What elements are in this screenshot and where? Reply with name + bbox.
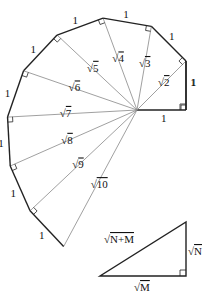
unit-label: 1 [39, 229, 45, 241]
general-right-triangle: √N+M√N√M [100, 222, 202, 293]
unit-label: 1 [5, 87, 11, 99]
svg-text:√10: √10 [91, 178, 109, 190]
svg-text:√N: √N [188, 245, 202, 257]
svg-text:√8: √8 [61, 134, 73, 146]
unit-edge [57, 18, 103, 35]
spiral-of-theodorus-diagram: 11111111111√2√3√4√5√6√7√8√9√10 √N+M√N√M [0, 0, 217, 299]
right-angle-mark [54, 38, 61, 42]
hypotenuse-label-sqrt-4: √4 [112, 52, 124, 64]
unit-label: 1 [10, 187, 16, 199]
hypotenuse-label-sqrt-2: √2 [158, 76, 170, 88]
svg-text:√N+M: √N+M [104, 233, 134, 245]
hypotenuse-label-sqrt-3: √3 [139, 57, 151, 69]
svg-text:√M: √M [134, 281, 150, 293]
svg-text:√5: √5 [87, 62, 99, 74]
unit-edge [8, 117, 11, 166]
right-angle-mark [8, 117, 13, 122]
svg-text:√4: √4 [112, 52, 124, 64]
triangle-outline [100, 222, 186, 276]
hypotenuse-label-sqrt-10: √10 [91, 178, 109, 190]
right-angle-mark [181, 105, 186, 110]
unit-label: 1 [161, 112, 167, 124]
svg-text:√9: √9 [72, 158, 84, 170]
svg-text:√6: √6 [69, 81, 81, 93]
hypotenuse-label-sqrt-8: √8 [61, 134, 73, 146]
unit-label: 1 [191, 76, 197, 88]
unit-label: 1 [30, 43, 35, 55]
svg-text:√7: √7 [60, 107, 72, 119]
hypotenuse-label-sqrt-6: √6 [69, 81, 81, 93]
radial-line [24, 71, 137, 110]
hypotenuse-label-sqrt-5: √5 [87, 62, 99, 74]
right-angle-mark [33, 207, 37, 214]
right-angle-mark [180, 270, 186, 276]
unit-edge [30, 211, 64, 247]
triangle-vertical-leg-label: √N [188, 245, 202, 257]
right-angle-mark [179, 57, 183, 64]
unit-label: 1 [73, 14, 79, 26]
hypotenuse-label-sqrt-9: √9 [72, 158, 84, 170]
radial-line [8, 110, 137, 117]
svg-text:√3: √3 [139, 57, 151, 69]
unit-label: 1 [123, 8, 129, 20]
unit-label: 1 [169, 30, 175, 42]
unit-label: 1 [0, 137, 4, 149]
triangle-horizontal-leg-label: √M [134, 281, 150, 293]
svg-text:√2: √2 [158, 76, 170, 88]
unit-edge [24, 35, 58, 71]
triangle-hypotenuse-label: √N+M [104, 233, 134, 245]
spiral: 11111111111√2√3√4√5√6√7√8√9√10 [0, 8, 197, 246]
hypotenuse-label-sqrt-7: √7 [60, 107, 72, 119]
